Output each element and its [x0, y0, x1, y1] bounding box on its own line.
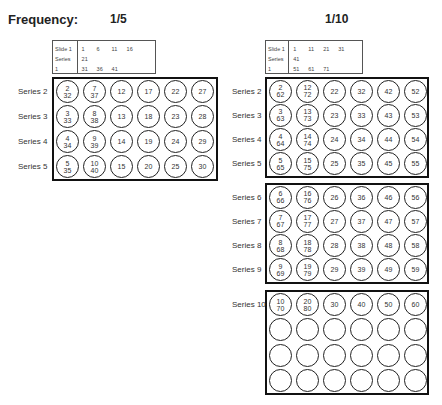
slot-circle[interactable]: 33: [350, 104, 373, 127]
slot-circle[interactable]: [323, 318, 346, 341]
series-label: Series 5: [18, 162, 47, 171]
slot-circle[interactable]: [296, 318, 319, 341]
slot-circle[interactable]: 1979: [296, 258, 319, 281]
slot-circle[interactable]: 1676: [296, 186, 319, 209]
slot-circle[interactable]: 59: [404, 258, 427, 281]
slot-circle[interactable]: [269, 318, 292, 341]
slot-circle[interactable]: 565: [269, 152, 292, 175]
slot-circle[interactable]: 35: [350, 152, 373, 175]
slot-circle[interactable]: 43: [377, 104, 400, 127]
series-label: Series 9: [232, 265, 261, 274]
slot-circle[interactable]: 14: [110, 130, 133, 153]
slot-circle[interactable]: 1474: [296, 128, 319, 151]
slot-circle[interactable]: 1070: [269, 293, 292, 316]
slot-circle[interactable]: 969: [269, 258, 292, 281]
slot-circle[interactable]: [269, 369, 292, 392]
slot-circle[interactable]: [296, 344, 319, 367]
slot-number: 77: [304, 221, 312, 228]
slot-circle[interactable]: 50: [377, 293, 400, 316]
slot-circle[interactable]: 57: [404, 210, 427, 233]
slot-circle[interactable]: 15: [110, 155, 133, 178]
slot-circle[interactable]: 19: [137, 130, 160, 153]
slot-circle[interactable]: 30: [323, 293, 346, 316]
slot-circle[interactable]: 17: [137, 80, 160, 103]
slot-circle[interactable]: 48: [377, 234, 400, 257]
slot-circle[interactable]: 58: [404, 234, 427, 257]
slot-circle[interactable]: 939: [83, 130, 106, 153]
slot-circle[interactable]: [377, 318, 400, 341]
slot-circle[interactable]: 12: [110, 80, 133, 103]
slot-circle[interactable]: 1575: [296, 152, 319, 175]
slot-circle[interactable]: 27: [191, 80, 214, 103]
slot-circle[interactable]: 25: [323, 152, 346, 175]
slot-circle[interactable]: [404, 318, 427, 341]
slot-circle[interactable]: 666: [269, 186, 292, 209]
slot-circle[interactable]: 32: [350, 80, 373, 103]
slot-circle[interactable]: [404, 344, 427, 367]
slot-circle[interactable]: 49: [377, 258, 400, 281]
slot-circle[interactable]: 262: [269, 80, 292, 103]
slot-circle[interactable]: 29: [323, 258, 346, 281]
slot-circle[interactable]: 24: [164, 130, 187, 153]
slot-circle[interactable]: 54: [404, 128, 427, 151]
slot-circle[interactable]: 47: [377, 210, 400, 233]
slot-circle[interactable]: 56: [404, 186, 427, 209]
slot-circle[interactable]: 535: [56, 155, 79, 178]
slot-circle[interactable]: 20: [137, 155, 160, 178]
slot-circle[interactable]: 39: [350, 258, 373, 281]
slot-circle[interactable]: 1878: [296, 234, 319, 257]
slot-circle[interactable]: 34: [350, 128, 373, 151]
slot-circle[interactable]: 28: [191, 105, 214, 128]
slot-circle[interactable]: 27: [323, 210, 346, 233]
slot-circle[interactable]: [296, 369, 319, 392]
slot-circle[interactable]: [377, 369, 400, 392]
slot-circle[interactable]: 363: [269, 104, 292, 127]
slot-circle[interactable]: 29: [191, 130, 214, 153]
slot-circle[interactable]: [404, 369, 427, 392]
slot-circle[interactable]: 333: [56, 105, 79, 128]
slot-circle[interactable]: 28: [323, 234, 346, 257]
slot-circle[interactable]: 52: [404, 80, 427, 103]
slot-circle[interactable]: [350, 369, 373, 392]
slot-circle[interactable]: [269, 344, 292, 367]
slot-circle[interactable]: 838: [83, 105, 106, 128]
slot-circle[interactable]: 36: [350, 186, 373, 209]
slot-circle[interactable]: 1373: [296, 104, 319, 127]
slot-circle[interactable]: 464: [269, 128, 292, 151]
slot-circle[interactable]: 1040: [83, 155, 106, 178]
slot-circle[interactable]: 767: [269, 210, 292, 233]
slot-circle[interactable]: 23: [323, 104, 346, 127]
slot-circle[interactable]: 45: [377, 152, 400, 175]
slot-circle[interactable]: 23: [164, 105, 187, 128]
slot-circle[interactable]: [323, 344, 346, 367]
slot-circle[interactable]: [377, 344, 400, 367]
slot-circle[interactable]: 40: [350, 293, 373, 316]
slot-circle[interactable]: 434: [56, 130, 79, 153]
slot-circle[interactable]: [350, 344, 373, 367]
slot-circle[interactable]: 37: [350, 210, 373, 233]
slot-circle[interactable]: 46: [377, 186, 400, 209]
slot-circle[interactable]: 13: [110, 105, 133, 128]
slot-circle[interactable]: 26: [323, 186, 346, 209]
slot-circle[interactable]: 22: [164, 80, 187, 103]
slot-circle[interactable]: 53: [404, 104, 427, 127]
slot-circle[interactable]: 42: [377, 80, 400, 103]
slot-circle[interactable]: 38: [350, 234, 373, 257]
slot-circle[interactable]: [323, 369, 346, 392]
slot-circle[interactable]: 25: [164, 155, 187, 178]
slot-circle[interactable]: 22: [323, 80, 346, 103]
slot-circle[interactable]: 737: [83, 80, 106, 103]
slot-circle[interactable]: 1777: [296, 210, 319, 233]
slot-circle[interactable]: 868: [269, 234, 292, 257]
slot-circle[interactable]: 24: [323, 128, 346, 151]
slot-circle[interactable]: 18: [137, 105, 160, 128]
slot-circle[interactable]: 60: [404, 293, 427, 316]
slot-circle[interactable]: 30: [191, 155, 214, 178]
slot-circle[interactable]: 2080: [296, 293, 319, 316]
slot-circle[interactable]: 1272: [296, 80, 319, 103]
slot-circle[interactable]: 44: [377, 128, 400, 151]
slot-circle[interactable]: [350, 318, 373, 341]
slot-circle[interactable]: 55: [404, 152, 427, 175]
slot-number: 59: [412, 266, 420, 273]
slot-circle[interactable]: 232: [56, 80, 79, 103]
